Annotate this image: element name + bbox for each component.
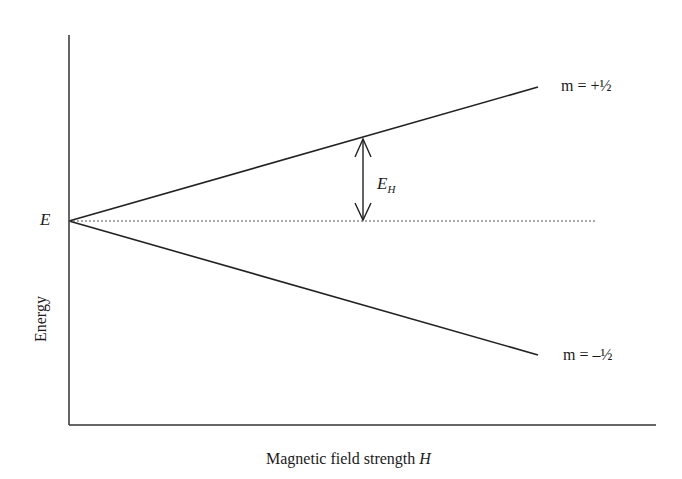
lower-level-label: m = –½ bbox=[563, 346, 612, 364]
splitting-energy-label: EH bbox=[377, 174, 395, 195]
upper-level-label: m = +½ bbox=[561, 77, 612, 95]
splitting-double-arrow bbox=[355, 139, 371, 220]
upper-level-line bbox=[69, 87, 538, 221]
x-axis-symbol: H bbox=[419, 450, 431, 467]
diagram-canvas bbox=[0, 0, 682, 479]
x-axis-label-text: Magnetic field strength bbox=[266, 450, 415, 467]
origin-energy-label: E bbox=[40, 210, 50, 230]
splitting-label-main: E bbox=[377, 174, 387, 193]
lower-level-line bbox=[69, 221, 538, 355]
x-axis-label: Magnetic field strength H bbox=[266, 450, 431, 468]
y-axis-label: Energy bbox=[32, 296, 50, 342]
splitting-label-sub: H bbox=[387, 183, 395, 195]
